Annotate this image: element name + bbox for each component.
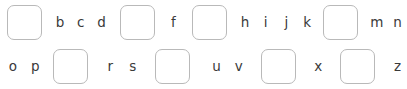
letter-slot-d: d bbox=[92, 0, 111, 45]
letter-slot-j: j bbox=[277, 0, 296, 45]
letter-slot-m: m bbox=[367, 0, 386, 45]
gap bbox=[248, 66, 256, 67]
alphabet-exercise: b c d f h i j k m n o p bbox=[0, 0, 407, 89]
letter-slot-p: p bbox=[26, 44, 45, 89]
blank-slot-q[interactable] bbox=[48, 44, 93, 89]
blank-box[interactable] bbox=[261, 49, 296, 84]
letter-slot-h: h bbox=[236, 0, 255, 45]
gap bbox=[195, 66, 207, 67]
blank-slot-l[interactable] bbox=[318, 0, 363, 45]
blank-box[interactable] bbox=[340, 49, 375, 84]
letter-slot-i: i bbox=[256, 0, 275, 45]
blank-slot-g[interactable] bbox=[187, 0, 232, 45]
blank-slot-e[interactable] bbox=[115, 0, 160, 45]
letter-slot-n: n bbox=[388, 0, 407, 45]
letter-slot-v: v bbox=[229, 44, 248, 89]
letter-slot-o: o bbox=[3, 44, 22, 89]
letter-slot-c: c bbox=[71, 0, 90, 45]
blank-box[interactable] bbox=[323, 5, 358, 40]
letter-slot-f: f bbox=[164, 0, 183, 45]
alphabet-row-1: b c d f h i j k m n bbox=[0, 0, 407, 45]
blank-box[interactable] bbox=[53, 49, 88, 84]
gap bbox=[142, 66, 150, 67]
alphabet-row-2: o p r s u v x z bbox=[0, 44, 407, 89]
blank-slot-a[interactable] bbox=[2, 0, 47, 45]
gap bbox=[93, 66, 101, 67]
blank-box[interactable] bbox=[120, 5, 155, 40]
letter-slot-x: x bbox=[309, 44, 328, 89]
letter-slot-r: r bbox=[101, 44, 120, 89]
blank-slot-t[interactable] bbox=[150, 44, 195, 89]
blank-box[interactable] bbox=[155, 49, 190, 84]
letter-slot-u: u bbox=[207, 44, 226, 89]
letter-slot-z: z bbox=[388, 44, 407, 89]
blank-box[interactable] bbox=[7, 5, 42, 40]
gap bbox=[380, 66, 388, 67]
blank-slot-w[interactable] bbox=[256, 44, 301, 89]
gap bbox=[301, 66, 309, 67]
blank-box[interactable] bbox=[192, 5, 227, 40]
letter-slot-b: b bbox=[51, 0, 70, 45]
letter-slot-k: k bbox=[298, 0, 317, 45]
blank-slot-y[interactable] bbox=[335, 44, 380, 89]
gap bbox=[328, 66, 336, 67]
letter-slot-s: s bbox=[123, 44, 142, 89]
